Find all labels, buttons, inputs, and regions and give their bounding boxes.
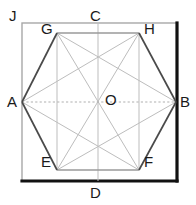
- vertex-label-h: H: [144, 21, 155, 36]
- vertex-label-c: C: [90, 8, 101, 23]
- vertex-label-b: B: [180, 94, 190, 109]
- vertex-label-f: F: [144, 154, 153, 169]
- vertex-label-o: O: [105, 92, 117, 107]
- vertex-label-j: J: [9, 8, 17, 23]
- geometry-figure: J C G H A O B E F D: [0, 0, 196, 205]
- vertex-label-d: D: [90, 185, 101, 200]
- vertex-label-e: E: [41, 154, 51, 169]
- vertex-label-g: G: [41, 21, 53, 36]
- vertex-label-a: A: [7, 94, 17, 109]
- figure-canvas: [0, 0, 196, 205]
